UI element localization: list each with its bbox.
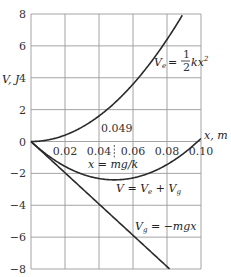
min-value-label: 0.049 [101,122,133,135]
svg-text:Ve=: Ve= [154,56,177,70]
x-tick-label: 0.06 [121,145,146,158]
y-tick-label: 8 [19,8,26,21]
v-total-curve-label: V = Ve + Vg [116,182,181,196]
x-tick-labels: 0.020.040.060.080.10 [53,145,214,158]
svg-text:kx2: kx2 [191,55,209,69]
y-tick-label: −8 [10,263,26,276]
y-axis-label: V, J [2,73,20,86]
energy-chart: 86420−2−4−6−8 0.020.040.060.080.10 V, J … [0,0,231,277]
y-tick-label: 4 [19,72,26,85]
y-tick-label: −2 [10,167,26,180]
x-tick-label: 0.10 [189,145,214,158]
y-tick-label: −6 [10,231,26,244]
x-tick-label: 0.08 [155,145,180,158]
y-tick-label: 2 [19,104,26,117]
vg-curve-label: Vg = −mgx [135,220,197,234]
y-tick-label: −4 [10,199,26,212]
svg-text:2: 2 [183,61,190,74]
min-formula-label: x = mg/k [88,158,139,171]
y-tick-label: 0 [19,136,26,149]
y-tick-labels: 86420−2−4−6−8 [10,8,26,276]
svg-text:1: 1 [183,48,190,61]
y-tick-label: 6 [19,40,26,53]
x-tick-label: 0.04 [87,145,112,158]
x-axis-label: x, m [204,129,228,142]
x-tick-label: 0.02 [53,145,78,158]
